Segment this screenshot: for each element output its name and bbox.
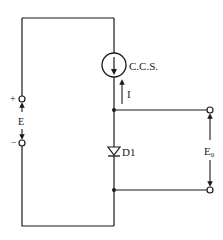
output-label: E0 [204,145,215,159]
diode-triangle-icon [108,147,120,155]
junction-dot-bottom [112,188,116,192]
supply-minus-terminal [19,140,25,146]
current-source [102,53,126,77]
supply-plus-sign: + [10,93,16,104]
output-top-terminal [207,107,213,113]
diode [108,147,120,156]
output-bottom-terminal [207,187,213,193]
supply-label: E [18,116,24,127]
left-lower-wire [22,146,114,226]
circuit-diagram: C.C.S. I D1 + − E E0 [0,0,223,240]
diode-label: D1 [122,146,135,158]
current-label: I [127,88,131,100]
supply-plus-terminal [19,96,25,102]
output-label-subscript: 0 [211,151,215,159]
current-source-label: C.C.S. [129,60,158,72]
junction-dot-top [112,108,116,112]
wires [22,18,207,226]
supply-minus-sign: − [11,137,17,148]
